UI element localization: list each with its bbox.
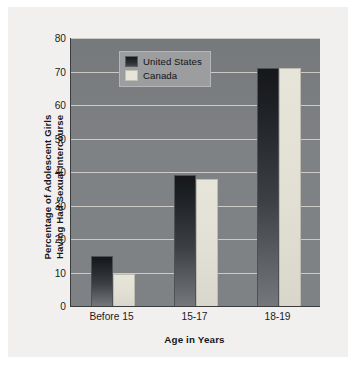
bar-canada [113, 274, 135, 306]
y-axis-tick-label: 70 [38, 66, 66, 77]
x-axis-tick-labels: Before 1515-1718-19 [70, 311, 319, 322]
x-axis-tick-label: 18-19 [236, 311, 319, 322]
y-axis-tick-label: 30 [38, 200, 66, 211]
plot-area: United States Canada [70, 38, 320, 307]
y-axis-tick-label: 10 [38, 267, 66, 278]
chart-legend: United States Canada [119, 51, 211, 87]
bar-united-states [91, 256, 113, 306]
y-axis-tick-label: 50 [38, 133, 66, 144]
y-axis-tick-label: 60 [38, 100, 66, 111]
bar-canada [279, 68, 301, 306]
legend-label-united-states: United States [143, 56, 202, 67]
x-axis-tick-label: 15-17 [153, 311, 236, 322]
y-axis-tick-label: 20 [38, 234, 66, 245]
y-axis-tick-label: 0 [38, 301, 66, 312]
bar-group [237, 38, 320, 306]
legend-swatch-icon-united-states [125, 56, 138, 67]
bar-canada [196, 179, 218, 306]
x-axis-title: Age in Years [70, 334, 319, 345]
x-axis-tick-label: Before 15 [70, 311, 153, 322]
bar-united-states [174, 175, 196, 306]
chart-figure-panel: Percentage of Adolescent Girls Having Ha… [8, 7, 348, 357]
legend-item-canada: Canada [125, 69, 202, 82]
y-axis-tick-label: 40 [38, 167, 66, 178]
legend-swatch-icon-canada [125, 70, 138, 81]
y-axis-tick-labels: 01020304050607080 [38, 38, 66, 306]
legend-item-united-states: United States [125, 55, 202, 68]
legend-label-canada: Canada [143, 70, 177, 81]
y-axis-tick-label: 80 [38, 33, 66, 44]
bar-united-states [257, 68, 279, 306]
